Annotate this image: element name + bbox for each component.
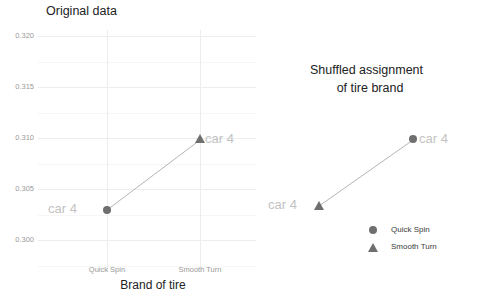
gridline-x-smooth-turn bbox=[200, 30, 201, 272]
gridline-y-minor-0.3175 bbox=[38, 62, 256, 63]
legend-item-smooth-turn[interactable]: Smooth Turn bbox=[369, 240, 479, 257]
right-panel-title-line1: Shuffled assignment bbox=[310, 63, 423, 77]
y-tick-label-4: 0.320 bbox=[0, 31, 34, 40]
x-tick-label-quick-spin: Quick Spin bbox=[67, 265, 147, 274]
right-panel-title-line2: of tire brand bbox=[310, 81, 430, 95]
right-panel: Shuffled assignment of tire brand car 4 … bbox=[262, 0, 481, 302]
shuffled-point-label-quick-spin: car 4 bbox=[419, 131, 448, 146]
shuffled-point-quick-spin-circle-icon bbox=[409, 135, 417, 143]
data-point-smooth-turn-triangle-icon bbox=[195, 134, 205, 143]
shuffled-point-label-smooth-turn: car 4 bbox=[268, 197, 297, 212]
gridline-y-0.315 bbox=[38, 87, 256, 88]
left-panel-title: Original data bbox=[46, 4, 117, 18]
gridline-x-quick-spin bbox=[107, 30, 108, 272]
legend-item-quick-spin[interactable]: Quick Spin bbox=[369, 223, 479, 240]
legend-label-quick-spin: Quick Spin bbox=[391, 225, 430, 234]
x-tick-label-smooth-turn: Smooth Turn bbox=[160, 265, 240, 274]
y-tick-label-0: 0.300 bbox=[0, 235, 34, 244]
left-panel: Original data 0.320 0.315 0.310 0.305 0.… bbox=[0, 0, 270, 302]
data-point-quick-spin-circle-icon bbox=[103, 206, 111, 214]
y-tick-label-2: 0.310 bbox=[0, 133, 34, 142]
left-panel-connector bbox=[0, 0, 270, 302]
legend: Quick Spin Smooth Turn bbox=[369, 223, 479, 257]
gridline-y-minor-0.3075 bbox=[38, 164, 256, 165]
y-tick-label-1: 0.305 bbox=[0, 184, 34, 193]
gridline-y-minor-0.3125 bbox=[38, 113, 256, 114]
x-axis-title: Brand of tire bbox=[68, 278, 238, 292]
legend-label-smooth-turn: Smooth Turn bbox=[391, 242, 437, 251]
gridline-y-0.300 bbox=[38, 240, 256, 241]
y-tick-label-3: 0.315 bbox=[0, 82, 34, 91]
legend-circle-icon bbox=[369, 226, 377, 234]
data-point-label-smooth-turn: car 4 bbox=[205, 131, 234, 146]
figure-canvas: Original data 0.320 0.315 0.310 0.305 0.… bbox=[0, 0, 481, 302]
gridline-y-0.320 bbox=[38, 36, 256, 37]
legend-triangle-icon bbox=[368, 243, 378, 252]
shuffled-point-smooth-turn-triangle-icon bbox=[314, 201, 324, 210]
data-point-label-quick-spin: car 4 bbox=[48, 201, 77, 216]
gridline-y-0.305 bbox=[38, 189, 256, 190]
